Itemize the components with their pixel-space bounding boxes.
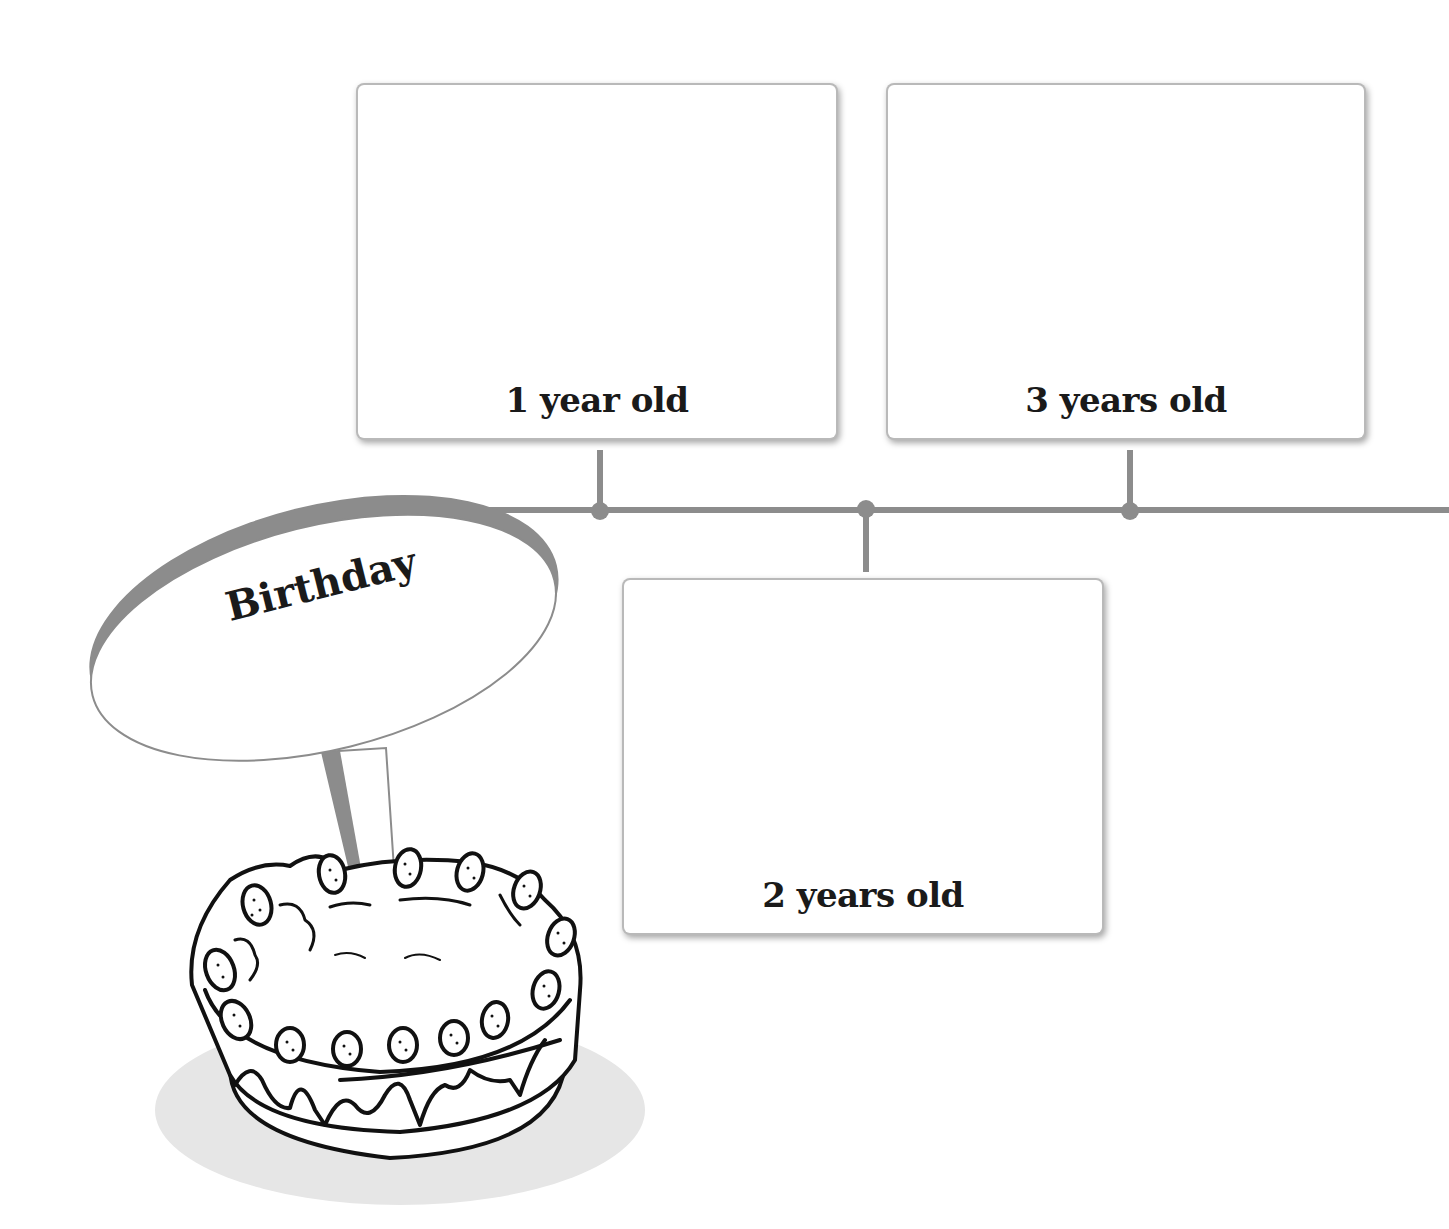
- birthday-sign: [61, 451, 588, 804]
- timeline-dot-2-years: [857, 500, 875, 518]
- birthday-timeline-worksheet: Birthday: [0, 0, 1449, 1229]
- milestone-label: 1 year old: [358, 380, 836, 420]
- timeline-dot-3-years: [1121, 502, 1139, 520]
- milestone-label: 3 years old: [888, 380, 1364, 420]
- photo-box-2-years: 2 years old: [624, 580, 1102, 933]
- photo-box-3-years: 3 years old: [888, 85, 1364, 438]
- timeline-dot-1-year: [591, 502, 609, 520]
- milestone-label: 2 years old: [624, 875, 1102, 915]
- photo-box-1-year: 1 year old: [358, 85, 836, 438]
